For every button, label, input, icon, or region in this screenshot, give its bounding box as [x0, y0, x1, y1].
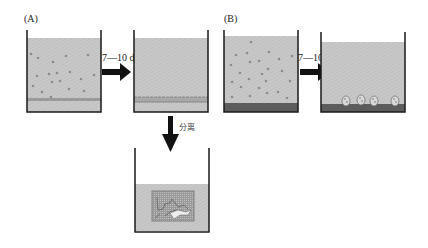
arrow-a-incubation: 7—10 d: [102, 52, 135, 81]
arrow-separation: 分离: [162, 116, 195, 152]
panel-a-label: (A): [24, 13, 38, 25]
beaker-a-separated: [135, 148, 209, 232]
separation-label: 分离: [179, 122, 195, 132]
beaker-a-after: [134, 30, 208, 112]
beaker-b-after: [321, 32, 405, 112]
incubation-time-a: 7—10 d: [102, 52, 135, 63]
panel-b-label: (B): [224, 13, 237, 25]
beaker-b-initial: [224, 30, 298, 112]
beaker-a-initial: [27, 30, 101, 112]
